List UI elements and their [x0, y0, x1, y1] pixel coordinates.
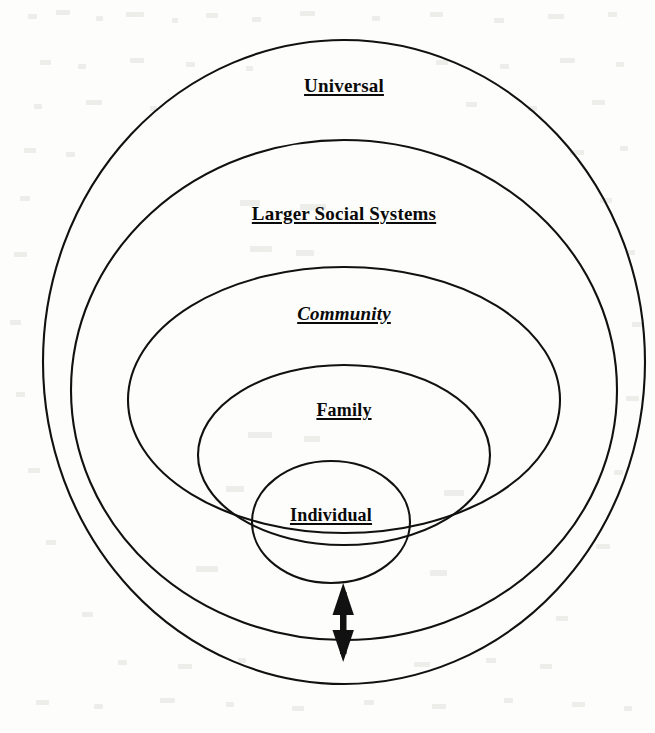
diagram-page: Universal Larger Social Systems Communit… — [0, 0, 655, 733]
ring-label-larger-social-systems: Larger Social Systems — [252, 203, 436, 225]
ring-label-community: Community — [297, 303, 391, 325]
concentric-circles-diagram — [0, 0, 655, 733]
ring-label-family: Family — [316, 400, 371, 421]
bidirectional-arrow — [333, 583, 354, 662]
ring-label-individual: Individual — [290, 505, 372, 526]
ring-label-universal: Universal — [304, 75, 384, 97]
